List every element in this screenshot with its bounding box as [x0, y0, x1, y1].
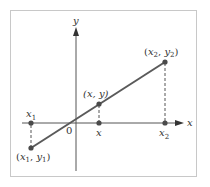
label-x-y: (x, y) — [83, 88, 109, 99]
point-x-y — [96, 101, 101, 106]
point-x1-y1 — [28, 145, 33, 150]
tick-point-x — [96, 120, 101, 125]
line-through-two-points-diagram: x y 0 x1 x x2 (x1, y1) (x, y) (x2, y2) — [0, 0, 210, 187]
origin-label: 0 — [66, 125, 72, 136]
y-axis-label: y — [72, 15, 79, 26]
tick-point-x2 — [162, 120, 167, 125]
point-x2-y2 — [162, 59, 167, 64]
tick-label-x: x — [96, 127, 102, 138]
x-axis-label: x — [187, 117, 193, 128]
